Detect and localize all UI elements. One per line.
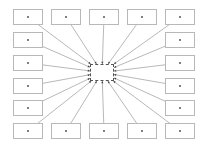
node-anchor-dot — [27, 85, 29, 87]
node-anchor-dot — [179, 62, 181, 64]
node-anchor-dot — [141, 130, 143, 132]
arrowhead-icon — [88, 65, 90, 67]
node-anchor-dot — [179, 16, 181, 18]
arrowhead-icon — [108, 62, 110, 64]
arrowhead-icon — [108, 81, 110, 83]
arrowhead-icon — [88, 74, 90, 76]
arrowhead-icon — [114, 74, 116, 76]
node-anchor-dot — [179, 39, 181, 41]
node-anchor-dot — [103, 130, 105, 132]
node-anchor-dot — [27, 39, 29, 41]
node-anchor-dot — [103, 16, 105, 18]
node-anchor-dot — [65, 16, 67, 18]
diagram-canvas — [0, 0, 202, 149]
arrowhead-icon — [101, 81, 103, 83]
node-anchor-dot — [179, 85, 181, 87]
node-anchor-dot — [141, 16, 143, 18]
arrowhead-icon — [114, 66, 116, 68]
arrowhead-icon — [94, 62, 96, 64]
arrowhead-icon — [88, 62, 90, 64]
node-anchor-dot — [27, 130, 29, 132]
arrowhead-icon — [114, 78, 116, 80]
node-anchor-dot — [27, 62, 29, 64]
arrowhead-icon — [95, 81, 97, 83]
arrowheads-layer — [0, 0, 202, 149]
arrowhead-icon — [114, 70, 116, 72]
node-anchor-dot — [65, 130, 67, 132]
node-anchor-dot — [179, 130, 181, 132]
node-anchor-dot — [27, 16, 29, 18]
node-anchor-dot — [27, 107, 29, 109]
node-anchor-dot — [179, 107, 181, 109]
arrowhead-icon — [88, 70, 90, 72]
arrowhead-icon — [88, 78, 90, 80]
arrowhead-icon — [89, 81, 91, 83]
arrowhead-icon — [101, 62, 103, 64]
arrowhead-icon — [114, 62, 116, 64]
arrowhead-icon — [113, 81, 115, 83]
